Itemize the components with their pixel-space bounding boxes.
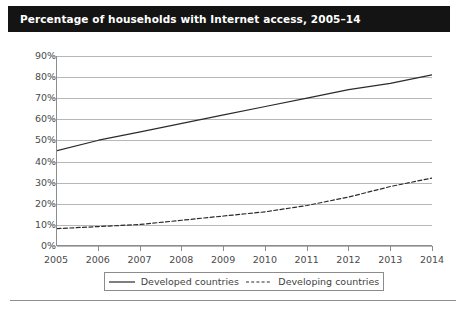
y-axis-tick-label: 60% (8, 114, 56, 124)
dashed-line-icon (246, 278, 272, 286)
series-line-developing-countries (57, 178, 432, 229)
data-series-layer (57, 56, 432, 245)
y-axis-tick-label: 30% (8, 178, 56, 188)
y-axis-tick-mark (50, 119, 55, 120)
x-axis-tick-mark (140, 246, 141, 251)
x-axis-tick-mark (348, 246, 349, 251)
y-axis-tick-mark (50, 77, 55, 78)
x-axis-tick-label: 2011 (295, 255, 319, 265)
footer-divider (10, 300, 456, 301)
x-axis-tick-mark (390, 246, 391, 251)
y-axis-tick-label: 90% (8, 51, 56, 61)
x-axis-tick-mark (223, 246, 224, 251)
y-axis-tick-mark (50, 161, 55, 162)
x-axis-tick-mark (307, 246, 308, 251)
x-axis-tick-label: 2009 (211, 255, 235, 265)
plot-area (56, 56, 432, 246)
x-axis-tick-label: 2010 (253, 255, 277, 265)
solid-line-icon (109, 278, 135, 286)
chart-title-banner: Percentage of households with Internet a… (8, 6, 450, 32)
x-axis-tick-label: 2006 (86, 255, 110, 265)
x-axis: 2005200620072008200920102011201220132014 (56, 246, 432, 272)
legend-entry[interactable]: Developing countries (246, 277, 379, 287)
series-line-developed-countries (57, 75, 432, 151)
x-axis-tick-label: 2013 (378, 255, 402, 265)
x-axis-tick-label: 2005 (44, 255, 68, 265)
x-axis-tick-label: 2012 (336, 255, 360, 265)
y-axis-tick-mark (50, 98, 55, 99)
x-axis-tick-label: 2007 (127, 255, 151, 265)
y-axis-tick-label: 80% (8, 72, 56, 82)
chart-legend: Developed countriesDeveloping countries (104, 272, 384, 291)
legend-label: Developed countries (141, 277, 239, 287)
y-axis-tick-mark (50, 182, 55, 183)
page-title: Percentage of households with Internet a… (8, 13, 361, 25)
chart-figure: 0%10%20%30%40%50%60%70%80%90% 2005200620… (0, 40, 463, 290)
y-axis-tick-mark (50, 203, 55, 204)
y-axis-tick-label: 10% (8, 220, 56, 230)
legend-entry[interactable]: Developed countries (109, 277, 239, 287)
x-axis-tick-mark (432, 246, 433, 251)
y-axis-tick-label: 0% (8, 241, 56, 251)
y-axis-tick-mark (50, 140, 55, 141)
x-axis-tick-mark (265, 246, 266, 251)
y-axis-tick-label: 70% (8, 93, 56, 103)
y-axis-tick-mark (50, 246, 55, 247)
y-axis-tick-label: 50% (8, 135, 56, 145)
x-axis-tick-mark (98, 246, 99, 251)
x-axis-tick-mark (181, 246, 182, 251)
y-axis-tick-mark (50, 224, 55, 225)
x-axis-tick-label: 2014 (420, 255, 444, 265)
legend-label: Developing countries (278, 277, 379, 287)
y-axis-tick-label: 40% (8, 157, 56, 167)
y-axis: 0%10%20%30%40%50%60%70%80%90% (0, 56, 56, 246)
y-axis-tick-mark (50, 56, 55, 57)
y-axis-tick-label: 20% (8, 199, 56, 209)
x-axis-tick-label: 2008 (169, 255, 193, 265)
